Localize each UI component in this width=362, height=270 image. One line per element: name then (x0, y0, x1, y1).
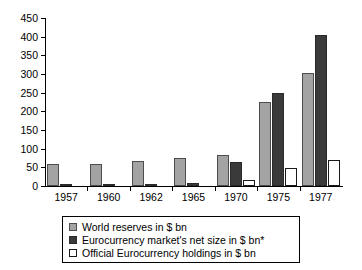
y-axis-tick-label: 150 (2, 125, 38, 135)
y-axis-tick-label: 200 (2, 106, 38, 116)
bar (315, 35, 327, 186)
legend-item: World reserves in $ bn (69, 220, 293, 233)
chart-legend: World reserves in $ bnEurocurrency marke… (62, 216, 300, 263)
y-axis-tick-mark (41, 186, 45, 187)
bar-group (172, 18, 214, 186)
bar-group (257, 18, 299, 186)
bar (302, 73, 314, 186)
y-axis-tick-label: 350 (2, 50, 38, 60)
y-axis-tick-label: 100 (2, 144, 38, 154)
y-axis-tick-label: 250 (2, 88, 38, 98)
bar (60, 184, 72, 186)
bar (47, 164, 59, 186)
plot-area (45, 18, 342, 186)
gray-filled-swatch (69, 223, 77, 231)
dark-filled-swatch (69, 236, 77, 244)
bar-group (45, 18, 87, 186)
x-axis-line (45, 186, 343, 187)
bar (174, 158, 186, 186)
bar (243, 180, 255, 186)
legend-item-label: Eurocurrency market's net size in $ bn* (82, 234, 264, 246)
y-axis-tick-label: 0 (2, 181, 38, 191)
y-axis-tick-label: 300 (2, 69, 38, 79)
bar-group (300, 18, 342, 186)
bar-group (215, 18, 257, 186)
bar (328, 160, 340, 186)
bar (103, 184, 115, 186)
legend-item: Eurocurrency market's net size in $ bn* (69, 233, 293, 246)
legend-item-label: World reserves in $ bn (82, 221, 187, 233)
bar (132, 161, 144, 186)
x-axis-label: 1977 (291, 191, 351, 203)
bar (145, 184, 157, 186)
bar (285, 168, 297, 186)
bar-group (87, 18, 129, 186)
legend-item-label: Official Eurocurrency holdings in $ bn (82, 247, 256, 259)
y-axis-tick-label: 450 (2, 13, 38, 23)
legend-item: Official Eurocurrency holdings in $ bn (69, 246, 293, 259)
bar (90, 164, 102, 186)
bar (259, 102, 271, 186)
white-outlined-swatch (69, 249, 77, 257)
bar (217, 155, 229, 186)
bar (272, 93, 284, 186)
chart-figure: 050100150200250300350400450 195719601962… (0, 0, 362, 270)
y-axis-tick-label: 400 (2, 32, 38, 42)
bar (187, 183, 199, 186)
bar-group (130, 18, 172, 186)
bar (230, 162, 242, 186)
y-axis-tick-label: 50 (2, 162, 38, 172)
